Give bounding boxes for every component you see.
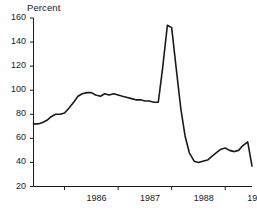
y-tick-label: 120 <box>4 60 26 70</box>
x-tick-label: 1987 <box>130 193 170 203</box>
y-tick-label: 20 <box>4 181 26 191</box>
x-tick-label: 1989 <box>237 193 257 203</box>
x-tick-marks <box>65 187 226 191</box>
chart-container: Percent 20406080100120140160 19861987198… <box>0 0 257 210</box>
y-tick-marks <box>30 18 34 187</box>
y-tick-label: 60 <box>4 132 26 142</box>
data-series-group <box>34 25 253 166</box>
x-tick-label: 1986 <box>77 193 117 203</box>
y-tick-label: 80 <box>4 108 26 118</box>
y-tick-label: 140 <box>4 36 26 46</box>
line-chart-svg <box>0 0 257 210</box>
x-tick-label: 1988 <box>184 193 224 203</box>
data-series-line <box>34 25 253 166</box>
y-tick-label: 160 <box>4 12 26 22</box>
axes-group <box>34 18 253 187</box>
y-tick-label: 40 <box>4 156 26 166</box>
y-tick-label: 100 <box>4 84 26 94</box>
